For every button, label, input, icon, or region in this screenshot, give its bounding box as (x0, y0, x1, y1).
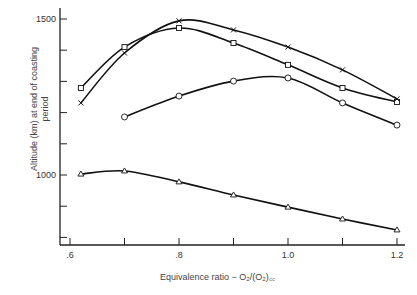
series-triangle (78, 168, 400, 232)
y-axis-label-line2: period (40, 9, 51, 209)
svg-text:.8: .8 (175, 250, 183, 260)
series-square (78, 26, 399, 105)
line-chart: 10001500.6.81.01.2 (0, 0, 417, 295)
y-axis-label: Altitude (km) at end of coasting period (29, 9, 51, 209)
svg-text:1.2: 1.2 (391, 250, 404, 260)
x-axis-label: Equivalence ratio − O₂/(O₂)꜀꜀ (160, 270, 275, 283)
svg-text:1.0: 1.0 (282, 250, 295, 260)
y-axis-label-line1: Altitude (km) at end of coasting (29, 9, 40, 209)
series-cross (78, 18, 399, 105)
svg-text:.6: .6 (66, 250, 74, 260)
series-circle (122, 75, 401, 128)
